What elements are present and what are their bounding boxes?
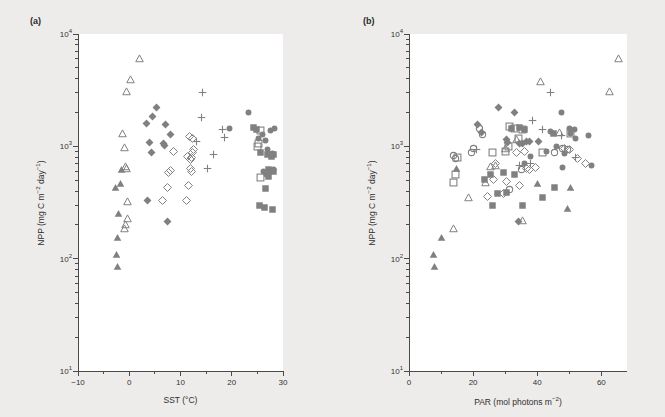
- data-point-filled-square: [499, 168, 508, 177]
- data-point-plus: [203, 164, 212, 173]
- data-point-filled-diamond: [510, 108, 519, 117]
- y-tick-minor-a: [75, 112, 79, 113]
- data-point-filled-circle: [266, 126, 275, 135]
- data-point-open-diamond: [512, 148, 521, 157]
- y-tick-major-a-1: [73, 258, 79, 259]
- x-tick-minor-b: [441, 371, 442, 374]
- y-tick-label-b-0: 101: [375, 365, 403, 376]
- y-tick-minor-b: [406, 292, 410, 293]
- data-point-filled-triangle: [117, 165, 126, 174]
- data-point-filled-triangle: [429, 250, 438, 259]
- data-point-filled-circle: [225, 124, 234, 133]
- y-tick-minor-b: [406, 303, 410, 304]
- y-tick-minor-b: [406, 58, 410, 59]
- y-tick-minor-b: [406, 205, 410, 206]
- data-point-open-square: [501, 147, 510, 156]
- y-tick-minor-a: [75, 263, 79, 264]
- data-point-open-diamond: [184, 181, 193, 190]
- data-point-open-square: [538, 148, 547, 157]
- y-tick-minor-a: [75, 58, 79, 59]
- panel-label-b: (b): [363, 16, 375, 26]
- data-point-filled-square: [549, 129, 558, 138]
- y-tick-minor-a: [75, 276, 79, 277]
- data-point-filled-circle: [584, 131, 593, 140]
- y-tick-minor-a: [75, 303, 79, 304]
- x-tick-label-b-3: 60: [587, 378, 615, 387]
- data-point-filled-diamond: [534, 137, 543, 146]
- data-point-open-triangle: [449, 224, 458, 233]
- y-tick-minor-a: [75, 180, 79, 181]
- data-point-plus: [220, 133, 229, 142]
- data-point-open-diamond: [158, 196, 167, 205]
- y-axis-line-a: [78, 34, 79, 371]
- data-point-plus: [197, 113, 206, 122]
- y-tick-label-a-0: 101: [44, 365, 72, 376]
- y-tick-major-b-3: [404, 34, 410, 35]
- y-tick-minor-b: [406, 92, 410, 93]
- x-tick-major-a-3: [231, 371, 232, 376]
- data-point-open-square: [518, 125, 527, 134]
- data-point-open-square: [566, 129, 575, 138]
- y-tick-minor-a: [75, 191, 79, 192]
- y-tick-minor-a: [75, 157, 79, 158]
- data-point-open-triangle: [135, 54, 144, 63]
- y-tick-major-b-1: [404, 258, 410, 259]
- y-axis-title-b: NPP (mg C m−2 day−1): [365, 123, 377, 283]
- y-tick-minor-b: [406, 276, 410, 277]
- x-tick-label-a-3: 20: [218, 378, 246, 387]
- y-tick-minor-a: [75, 78, 79, 79]
- data-point-open-square: [253, 142, 262, 151]
- x-tick-label-a-1: 0: [115, 378, 143, 387]
- x-tick-major-b-3: [601, 371, 602, 376]
- y-tick-label-b-3: 104: [375, 28, 403, 39]
- y-tick-minor-a: [75, 92, 79, 93]
- data-point-filled-triangle: [116, 179, 125, 188]
- data-point-filled-diamond: [142, 119, 151, 128]
- y-tick-minor-a: [75, 44, 79, 45]
- data-point-open-circle: [478, 130, 487, 139]
- x-tick-minor-a: [103, 371, 104, 374]
- data-point-open-diamond: [164, 168, 173, 177]
- data-point-filled-square: [267, 152, 276, 161]
- data-point-filled-triangle: [437, 233, 446, 242]
- data-point-open-square: [488, 148, 497, 157]
- y-tick-minor-b: [406, 283, 410, 284]
- plot-area-a: [78, 34, 283, 371]
- y-tick-minor-b: [406, 224, 410, 225]
- y-tick-minor-b: [406, 44, 410, 45]
- data-point-open-triangle: [122, 87, 131, 96]
- y-tick-minor-a: [75, 292, 79, 293]
- data-point-open-triangle: [614, 54, 623, 63]
- data-point-filled-square: [518, 201, 527, 210]
- data-point-plus: [571, 153, 580, 162]
- data-point-filled-square: [268, 205, 277, 214]
- x-axis-title-a: SST (°C): [78, 395, 283, 405]
- data-point-open-diamond: [163, 183, 172, 192]
- y-tick-minor-b: [406, 112, 410, 113]
- y-tick-minor-b: [406, 157, 410, 158]
- data-point-open-circle: [467, 148, 476, 157]
- data-point-open-circle: [550, 148, 559, 157]
- y-axis-title-a: NPP (mg C m−2 day−1): [34, 123, 46, 283]
- data-point-filled-diamond: [160, 141, 169, 150]
- data-point-filled-triangle: [563, 204, 572, 213]
- x-tick-label-b-2: 40: [523, 378, 551, 387]
- panel-label-a: (a): [30, 16, 41, 26]
- data-point-plus: [528, 116, 537, 125]
- y-tick-minor-b: [406, 171, 410, 172]
- data-point-plus: [192, 137, 201, 146]
- y-tick-minor-b: [406, 337, 410, 338]
- data-point-filled-square: [261, 184, 270, 193]
- y-axis-line-b: [409, 34, 410, 371]
- data-point-filled-square: [493, 189, 502, 198]
- x-tick-major-b-2: [537, 371, 538, 376]
- y-tick-minor-a: [75, 205, 79, 206]
- plot-area-b: [409, 34, 627, 371]
- data-point-filled-diamond: [147, 148, 156, 157]
- y-tick-minor-a: [75, 39, 79, 40]
- y-tick-minor-b: [406, 317, 410, 318]
- x-tick-label-b-1: 20: [459, 378, 487, 387]
- x-tick-minor-b: [505, 371, 506, 374]
- data-point-open-diamond: [187, 167, 196, 176]
- data-point-filled-triangle: [430, 262, 439, 271]
